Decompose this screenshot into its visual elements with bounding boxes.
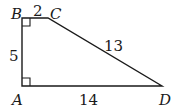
side-label-bc: 2 xyxy=(33,2,43,20)
vertex-label-a: A xyxy=(10,91,23,108)
side-label-ab: 5 xyxy=(9,47,19,65)
vertex-label-c: C xyxy=(50,5,62,23)
side-label-ad: 14 xyxy=(79,91,98,108)
trapezoid-shape xyxy=(22,18,162,86)
right-angle-marker-b xyxy=(22,18,30,26)
vertex-label-d: D xyxy=(158,91,171,108)
trapezoid-diagram: B C A D 2 5 13 14 xyxy=(0,0,177,108)
right-angle-marker-a xyxy=(22,78,30,86)
side-label-cd: 13 xyxy=(104,37,123,55)
vertex-label-b: B xyxy=(10,5,22,23)
